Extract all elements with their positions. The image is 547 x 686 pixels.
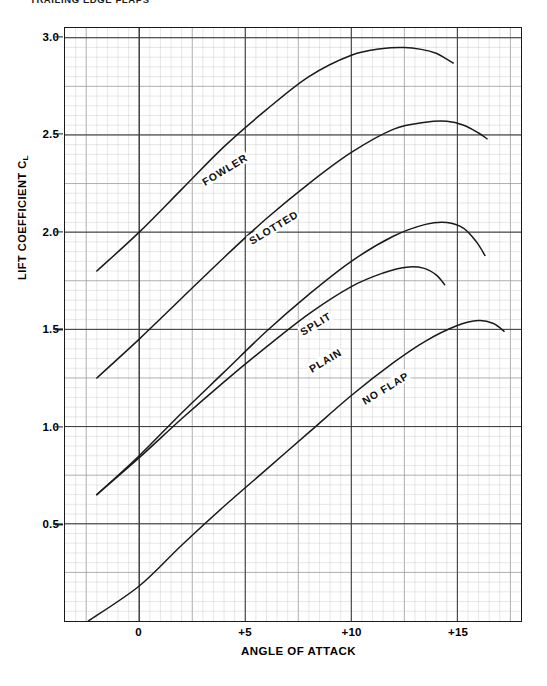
- chart-curves: [65, 28, 521, 621]
- x-axis-title: ANGLE OF ATTACK: [0, 645, 547, 657]
- x-tick-label: 0: [135, 626, 142, 638]
- y-axis-title: LIFT COEFFICIENT CL: [16, 156, 28, 281]
- chart-plot-area: [64, 27, 522, 622]
- x-tick-label: +5: [238, 626, 252, 638]
- y-axis-title-subscript: L: [21, 156, 30, 161]
- y-tick-mark: [55, 231, 63, 232]
- x-tick-label: +10: [342, 626, 362, 638]
- y-tick-mark: [55, 36, 63, 37]
- x-axis-title-text: ANGLE OF ATTACK: [191, 645, 356, 657]
- page-title: TRAILING EDGE FLAPS: [30, 0, 150, 5]
- y-tick-mark: [55, 329, 63, 330]
- y-axis-title-text: LIFT COEFFICIENT C: [16, 160, 28, 280]
- y-tick-mark: [55, 134, 63, 135]
- y-tick-mark: [55, 426, 63, 427]
- x-axis-tick-labels: 0+5+10+15: [64, 626, 522, 642]
- y-axis-tick-labels: 3.02.52.01.51.00.5: [0, 27, 59, 622]
- x-tick-label: +15: [448, 626, 468, 638]
- y-tick-mark: [55, 524, 63, 525]
